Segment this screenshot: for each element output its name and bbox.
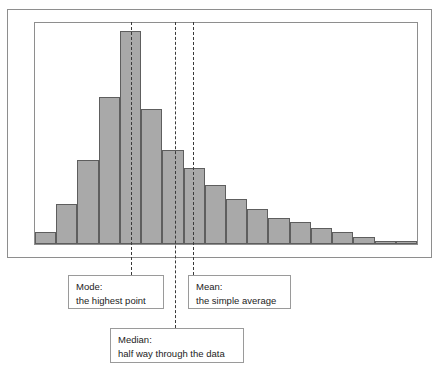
histogram-bar bbox=[184, 168, 205, 244]
histogram-bars bbox=[34, 22, 418, 245]
marker-line-median bbox=[175, 22, 176, 328]
histogram-bar bbox=[162, 150, 183, 244]
histogram-bar bbox=[290, 222, 311, 244]
callout-mode-text: the highest point bbox=[76, 294, 156, 308]
histogram-bar bbox=[247, 209, 268, 244]
callout-mode: Mode: the highest point bbox=[68, 275, 164, 309]
callout-median-text: half way through the data bbox=[118, 347, 236, 361]
histogram-bar bbox=[396, 241, 417, 244]
histogram-bar bbox=[353, 237, 374, 244]
figure-canvas: Mode: the highest point Mean: the simple… bbox=[0, 0, 448, 374]
histogram-bar bbox=[205, 185, 226, 244]
marker-line-mode bbox=[131, 22, 132, 275]
callout-mean-text: the simple average bbox=[196, 294, 283, 308]
histogram-bar bbox=[268, 218, 289, 244]
callout-mean-title: Mean: bbox=[196, 280, 283, 294]
histogram-bar bbox=[332, 232, 353, 244]
callout-mode-title: Mode: bbox=[76, 280, 156, 294]
histogram-bar bbox=[311, 228, 332, 244]
histogram-bar bbox=[375, 241, 396, 244]
histogram-bar bbox=[141, 109, 162, 244]
histogram-bar bbox=[99, 97, 120, 244]
histogram-bar bbox=[77, 160, 98, 244]
histogram-bar bbox=[56, 204, 77, 244]
callout-median: Median: half way through the data bbox=[110, 328, 244, 363]
histogram-bar bbox=[35, 232, 56, 244]
callout-mean: Mean: the simple average bbox=[188, 275, 291, 309]
callout-median-title: Median: bbox=[118, 333, 236, 347]
histogram-bar bbox=[226, 199, 247, 244]
marker-line-mean bbox=[193, 22, 194, 275]
